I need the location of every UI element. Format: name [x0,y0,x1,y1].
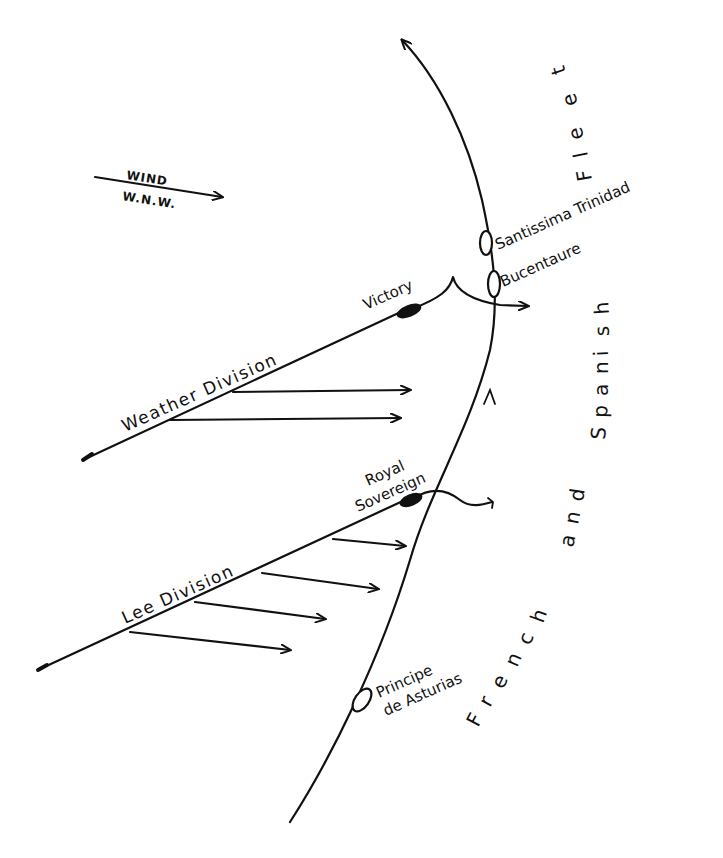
ship-santissima-trinidad-icon [480,231,492,255]
weather-bearing-arrow-2 [170,418,400,420]
fleet-letter: n [589,361,613,374]
weather-division-line [85,310,405,459]
wind-indicator: WIND W.N.W. [95,168,222,211]
ship-principe-de-asturias-icon [349,685,375,714]
lee-bearing-arrow-4 [130,632,290,650]
fleet-letter: s [590,325,614,336]
fleet-letter: h [589,301,614,315]
fleet-letter: e [556,91,582,109]
fleet-letter: p [588,405,612,419]
lee-bearing-arrow-1 [333,539,405,546]
lee-bearing-arrow-3 [195,602,325,619]
weather-bearing-arrow-1 [233,390,410,392]
wind-direction-label: W.N.W. [122,189,178,211]
fleet-letter: a [589,384,613,396]
fleet-letter: i [589,350,613,356]
fleet-letter: e [486,671,513,693]
fleet-letter: F [571,168,597,184]
fleet-letter: F [461,709,488,730]
trafalgar-battle-diagram: WIND W.N.W. Santissima Trinidad Bucentau… [0,0,723,858]
fleet-letter: S [586,426,611,440]
ship-victory-icon [395,301,424,322]
fleet-letter: c [512,629,538,648]
fleet-letter: n [559,509,585,526]
fleet-letter: h [525,606,552,626]
fleet-letter: e [563,125,589,143]
fleet-letter: n [500,649,527,670]
line-direction-arrow-icon [484,390,495,404]
fleet-label: F r e n c h a n d S p a n i s h F l e e … [461,63,614,731]
fleet-letter: a [554,532,580,549]
lee-division: Lee Division Royal Sovereign [38,456,493,670]
royal-sovereign-track [414,491,492,505]
fleet-letter: d [564,487,590,503]
lee-bearing-arrow-2 [262,573,378,589]
lee-division-label: Lee Division [118,560,237,627]
fleet-letter: l [568,150,593,160]
santissima-trinidad-label: Santissima Trinidad [492,178,633,254]
fleet-letter: r [473,691,498,710]
fleet-letter: t [545,63,570,78]
